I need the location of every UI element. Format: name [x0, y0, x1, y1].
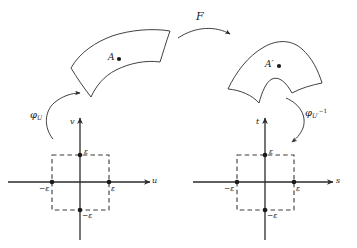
right-tick-neg-s-label: −ε — [224, 185, 234, 193]
region-A-label: A — [108, 53, 115, 62]
left-tick-pos-u-label: ε — [111, 185, 115, 193]
region-Aprime-shape — [228, 42, 322, 103]
region-Aprime-point — [277, 64, 281, 68]
diagram-canvas: F A A′ φU φU′−1 u v ε −ε ε −ε s t ε −ε ε… — [0, 0, 357, 248]
right-coordinate-plane — [193, 118, 333, 240]
right-axis-t-label: t — [256, 118, 259, 126]
map-phi-U-label: φU — [30, 110, 42, 121]
phi-subscript-U: U — [37, 114, 42, 121]
arrow-phi-Uprime-inverse — [286, 98, 304, 142]
left-tick-neg-u-label: −ε — [39, 185, 49, 193]
phi-glyph-right: φ — [305, 107, 312, 118]
region-A-point — [117, 57, 121, 61]
right-tick-pos-s-label: ε — [296, 185, 300, 193]
right-tick-neg-t-label: −ε — [267, 212, 277, 220]
region-Aprime-label: A′ — [265, 60, 274, 69]
phi-subscript-Uprime: U′ — [312, 112, 319, 119]
right-tick-pos-t-label: ε — [269, 148, 273, 156]
arrow-F — [178, 28, 230, 38]
right-point-pos-t — [263, 153, 268, 158]
diagram-svg — [0, 0, 357, 248]
left-tick-neg-v-label: −ε — [82, 212, 92, 220]
region-A-shape — [71, 30, 170, 97]
phi-glyph: φ — [30, 109, 37, 120]
left-point-neg-u — [50, 180, 55, 185]
right-axis-s-label: s — [336, 177, 340, 185]
left-tick-pos-v-label: ε — [84, 148, 88, 156]
map-F-label: F — [196, 11, 204, 22]
phi-superscript-inverse: −1 — [319, 108, 328, 114]
left-axis-u-label: u — [152, 177, 157, 185]
arrow-phi-U — [46, 93, 80, 139]
left-coordinate-plane — [8, 118, 150, 240]
right-point-neg-s — [235, 180, 240, 185]
left-point-pos-v — [78, 153, 83, 158]
left-axis-v-label: v — [70, 118, 75, 126]
map-phi-Uprime-inverse-label: φU′−1 — [305, 108, 327, 119]
